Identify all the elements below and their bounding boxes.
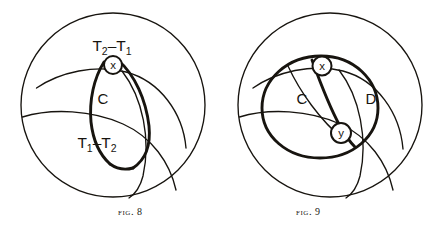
fig9-arc-upper xyxy=(253,68,403,149)
fig9-label-y: y xyxy=(338,127,344,139)
fig8-label-lower-region: T1–T2 xyxy=(77,134,116,154)
figure-8-caption-number: 8 xyxy=(137,206,143,217)
fig8-label-x: x xyxy=(110,59,116,71)
figure-8-group: x T2–T1 T1–T2 C xyxy=(21,13,205,198)
fig8-arc-upper xyxy=(37,69,187,148)
figure-8-caption: Fig.8 xyxy=(118,206,143,217)
fig8-arc-right-descend xyxy=(122,71,146,198)
fig8-lens-right-edge xyxy=(118,60,149,168)
fig8-lens-bottom-edge xyxy=(110,164,133,169)
fig8-upper-sub2: 1 xyxy=(126,45,132,57)
fig9-label-x: x xyxy=(319,60,325,72)
figure-9-caption-word: Fig. xyxy=(296,206,312,217)
figure-9-group: x y C D xyxy=(238,13,422,198)
figure-9-caption: Fig.9 xyxy=(296,206,321,217)
figure-plate: x T2–T1 T1–T2 C xyxy=(0,0,439,231)
figure-8-caption-word: Fig. xyxy=(118,206,134,217)
fig8-label-upper-region: T2–T1 xyxy=(92,37,131,57)
fig9-label-lens-c: C xyxy=(297,90,308,107)
figures-svg: x T2–T1 T1–T2 C xyxy=(0,0,439,231)
fig8-lower-sub2: 2 xyxy=(111,142,117,154)
fig8-label-lens-c: C xyxy=(98,90,109,107)
fig9-label-lens-d: D xyxy=(366,90,377,107)
fig9-arc-left xyxy=(240,112,394,190)
figure-9-caption-number: 9 xyxy=(315,206,321,217)
